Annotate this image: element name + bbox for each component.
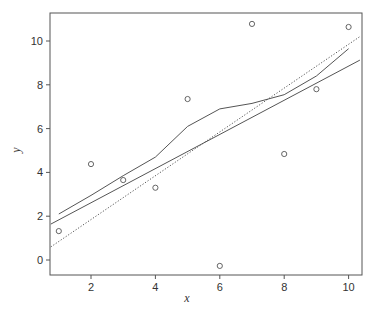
y-tick-label: 4	[37, 166, 43, 178]
data-point	[282, 151, 287, 156]
data-point	[346, 24, 351, 29]
x-tick-label: 2	[88, 281, 94, 293]
plot-frame	[50, 13, 362, 275]
y-axis-title: y	[9, 147, 23, 154]
data-point	[314, 87, 319, 92]
y-tick-label: 2	[37, 210, 43, 222]
y-tick-label: 6	[37, 123, 43, 135]
scatter-plot: 0246810 246810 x y	[0, 0, 375, 316]
y-axis: 0246810	[31, 35, 50, 266]
reference-line	[51, 37, 360, 247]
x-tick-label: 8	[281, 281, 287, 293]
x-axis: 246810	[88, 275, 355, 293]
data-point	[121, 177, 126, 182]
x-tick-label: 6	[217, 281, 223, 293]
y-tick-label: 0	[37, 254, 43, 266]
data-point	[153, 185, 158, 190]
x-tick-label: 10	[342, 281, 354, 293]
data-point	[56, 228, 61, 233]
plot-border	[50, 13, 362, 275]
data-point	[185, 96, 190, 101]
smooth-curve	[59, 49, 349, 214]
data-point	[249, 21, 254, 26]
x-tick-label: 4	[152, 281, 158, 293]
y-tick-label: 10	[31, 35, 43, 47]
fit-lines	[51, 37, 360, 247]
x-axis-title: x	[183, 291, 190, 305]
y-tick-label: 8	[37, 79, 43, 91]
data-points	[56, 21, 351, 268]
data-point	[217, 263, 222, 268]
data-point	[88, 161, 93, 166]
